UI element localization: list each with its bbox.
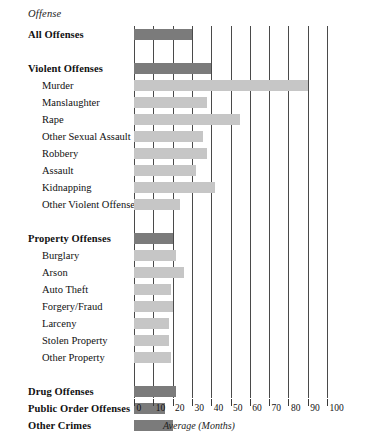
offense-label: Robbery — [0, 145, 131, 162]
offense-label: Violent Offenses — [0, 60, 131, 77]
bar — [134, 97, 207, 108]
axis-tick-20 — [173, 399, 174, 406]
offense-label: Public Order Offenses — [0, 400, 131, 417]
offense-label: Other Crimes — [0, 417, 131, 434]
bar-row — [134, 77, 327, 94]
offense-column-header: Offense — [28, 8, 61, 19]
axis-tick-70 — [269, 399, 270, 406]
offense-label: Auto Theft — [0, 281, 131, 298]
axis-tick-label: 0 — [137, 403, 142, 413]
offense-label: Stolen Property — [0, 332, 131, 349]
axis-tick-label: 80 — [291, 403, 301, 413]
axis-tick-100 — [327, 399, 328, 406]
axis-tick-label: 20 — [175, 403, 185, 413]
axis-tick-80 — [288, 399, 289, 406]
bar-row — [134, 94, 327, 111]
axis-tick-label: 40 — [214, 403, 224, 413]
bar-row — [134, 128, 327, 145]
bar-row — [134, 43, 327, 60]
bar-row — [134, 247, 327, 264]
bar — [134, 233, 173, 244]
bar-row — [134, 332, 327, 349]
bar-row — [134, 298, 327, 315]
bar — [134, 80, 308, 91]
chart-plot-area — [134, 26, 327, 398]
bar-row — [134, 349, 327, 366]
bar — [134, 131, 203, 142]
axis-tick-label: 70 — [272, 403, 282, 413]
offense-label-column: All Offenses Violent OffensesMurderMansl… — [0, 26, 131, 434]
bar-row — [134, 213, 327, 230]
offense-sentence-length-chart: Offense All Offenses Violent OffensesMur… — [0, 0, 372, 448]
offense-label: Drug Offenses — [0, 383, 131, 400]
bar-row — [134, 230, 327, 247]
bar-row — [134, 383, 327, 400]
bar-row — [134, 196, 327, 213]
bar-row — [134, 281, 327, 298]
bar — [134, 165, 196, 176]
offense-label: Other Property — [0, 349, 131, 366]
bar — [134, 63, 211, 74]
bar — [134, 318, 169, 329]
x-axis-title: Average (Months) — [163, 420, 235, 431]
bar — [134, 148, 207, 159]
offense-label: Assault — [0, 162, 131, 179]
offense-label: Arson — [0, 264, 131, 281]
offense-label: Larceny — [0, 315, 131, 332]
bar-row — [134, 366, 327, 383]
bar-row — [134, 111, 327, 128]
axis-tick-label: 100 — [330, 403, 344, 413]
axis-tick-0 — [134, 399, 135, 406]
axis-tick-10 — [153, 399, 154, 406]
bar-row — [134, 162, 327, 179]
axis-tick-60 — [250, 399, 251, 406]
bar-row — [134, 26, 327, 43]
axis-tick-40 — [211, 399, 212, 406]
axis-tick-50 — [231, 399, 232, 406]
axis-tick-label: 60 — [252, 403, 262, 413]
bar-series — [134, 26, 327, 398]
offense-label: Other Sexual Assault — [0, 128, 131, 145]
offense-label: All Offenses — [0, 26, 131, 43]
axis-tick-label: 90 — [310, 403, 320, 413]
offense-label: Rape — [0, 111, 131, 128]
bar — [134, 199, 180, 210]
offense-label: Other Violent Offenses — [0, 196, 131, 213]
gridline-100 — [327, 26, 328, 398]
bar — [134, 284, 171, 295]
bar — [134, 267, 184, 278]
axis-tick-label: 30 — [194, 403, 204, 413]
bar-row — [134, 60, 327, 77]
axis-tick-90 — [308, 399, 309, 406]
x-axis: 0102030405060708090100 — [134, 399, 334, 415]
offense-label: Burglary — [0, 247, 131, 264]
bar-row — [134, 179, 327, 196]
bar-row — [134, 264, 327, 281]
bar-row — [134, 315, 327, 332]
bar-row — [134, 145, 327, 162]
offense-label: Murder — [0, 77, 131, 94]
bar — [134, 250, 176, 261]
axis-tick-label: 10 — [156, 403, 166, 413]
axis-tick-30 — [192, 399, 193, 406]
bar — [134, 114, 240, 125]
offense-label: Manslaughter — [0, 94, 131, 111]
bar — [134, 182, 215, 193]
axis-tick-label: 50 — [233, 403, 243, 413]
offense-label: Forgery/Fraud — [0, 298, 131, 315]
bar — [134, 301, 173, 312]
bar — [134, 335, 169, 346]
bar — [134, 352, 171, 363]
offense-label: Kidnapping — [0, 179, 131, 196]
bar — [134, 29, 192, 40]
bar — [134, 386, 176, 397]
offense-label: Property Offenses — [0, 230, 131, 247]
